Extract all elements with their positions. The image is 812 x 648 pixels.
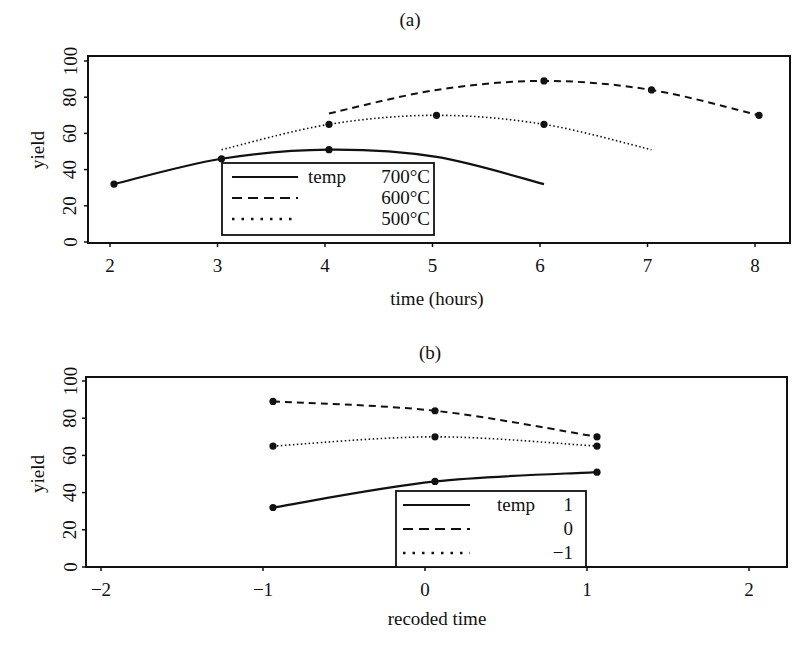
legend-entry-label: 0 (564, 518, 574, 539)
legend: temp10−1 (396, 491, 586, 567)
legend-entry-label: 1 (564, 494, 574, 515)
data-point-marker (593, 443, 600, 450)
y-tick-label: 0 (60, 237, 81, 247)
data-point-marker (431, 478, 438, 485)
y-tick-label: 20 (60, 196, 81, 215)
data-point-marker (540, 77, 547, 84)
series-line-dashed (273, 401, 597, 436)
series-line-dashed (329, 81, 759, 115)
legend-entry-label: 700°C (381, 166, 430, 187)
x-tick-label: 2 (105, 255, 115, 276)
y-tick-label: 20 (60, 520, 81, 539)
data-point-marker (593, 433, 600, 440)
x-tick-label: 5 (428, 255, 438, 276)
data-point-marker (269, 504, 276, 511)
y-tick-label: 40 (60, 160, 81, 179)
x-axis-label: recoded time (388, 608, 487, 629)
data-point-marker (755, 112, 762, 119)
x-tick-label: −1 (253, 579, 273, 600)
x-tick-label: 7 (643, 255, 653, 276)
data-point-marker (325, 121, 332, 128)
y-tick-label: 100 (60, 47, 81, 76)
panel-b: (b)020406080100−2−1012recoded timeyieldt… (27, 342, 787, 629)
x-axis-label: time (hours) (390, 288, 483, 310)
data-point-marker (431, 407, 438, 414)
data-point-marker (540, 121, 547, 128)
x-tick-label: 3 (213, 255, 223, 276)
data-point-marker (218, 155, 225, 162)
x-tick-label: 2 (744, 579, 754, 600)
legend: temp700°C600°C500°C (222, 163, 434, 235)
y-axis-label: yield (27, 131, 48, 169)
data-point-marker (648, 86, 655, 93)
y-axis-label: yield (27, 455, 48, 493)
data-point-marker (593, 469, 600, 476)
panel-title: (a) (399, 9, 420, 31)
legend-title: temp (308, 166, 346, 187)
plot-frame (88, 56, 790, 243)
y-tick-label: 60 (60, 124, 81, 143)
x-tick-label: 1 (582, 579, 592, 600)
x-tick-label: 0 (420, 579, 430, 600)
panel-title: (b) (419, 342, 441, 364)
x-tick-label: 8 (750, 255, 760, 276)
y-tick-label: 100 (60, 367, 81, 396)
figure: (a)0204060801002345678time (hours)yieldt… (0, 0, 812, 648)
data-point-marker (325, 146, 332, 153)
y-tick-label: 80 (60, 409, 81, 428)
series-line-dotted (222, 115, 652, 149)
x-tick-label: 6 (535, 255, 545, 276)
y-tick-label: 40 (60, 483, 81, 502)
panel-a: (a)0204060801002345678time (hours)yieldt… (27, 9, 790, 310)
y-tick-label: 0 (60, 562, 81, 572)
y-tick-label: 80 (60, 88, 81, 107)
data-point-marker (433, 112, 440, 119)
data-point-marker (431, 433, 438, 440)
data-point-marker (269, 443, 276, 450)
legend-entry-label: −1 (553, 542, 573, 563)
y-tick-label: 60 (60, 446, 81, 465)
legend-entry-label: 500°C (381, 208, 430, 229)
x-tick-label: −2 (91, 579, 111, 600)
legend-title: temp (497, 494, 535, 515)
x-tick-label: 4 (320, 255, 330, 276)
legend-entry-label: 600°C (381, 187, 430, 208)
data-point-marker (269, 398, 276, 405)
data-point-marker (110, 180, 117, 187)
